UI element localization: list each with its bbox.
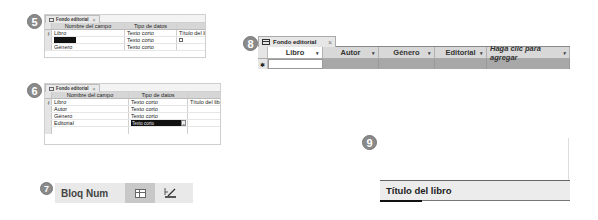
sort-filter-arrow-icon[interactable]: ▾ — [480, 50, 483, 56]
field-row-empty[interactable] — [45, 127, 220, 134]
field-row[interactable]: Editorial Texto corto ⌄ — [45, 120, 220, 127]
field-row[interactable]: ⚷ Libro Texto corto Título del libro — [45, 30, 205, 37]
chevron-down-icon[interactable]: ⌄ — [181, 120, 186, 126]
data-type-cell[interactable]: Texto corto — [125, 30, 177, 36]
data-type-cell[interactable]: Texto corto — [129, 106, 188, 112]
header-data-type: Tipo de datos — [129, 92, 188, 98]
field-row[interactable]: Género Texto corto — [45, 44, 205, 51]
data-type-cell[interactable]: Texto corto — [125, 44, 177, 50]
field-name-cell[interactable]: Libro — [52, 99, 129, 105]
data-type-cell[interactable]: Texto corto — [129, 99, 188, 105]
design-view-icon — [164, 187, 177, 199]
column-headers: Libro ▾ Autor ▾ Género ▾ Editorial ▾ Hag… — [258, 47, 570, 59]
table-design-icon — [49, 18, 54, 22]
row-selector[interactable] — [45, 106, 52, 112]
field-name-cell-selected[interactable]: Autor — [52, 37, 125, 43]
tab-label: Fondo editorial — [56, 86, 89, 91]
tab-fondo-editorial[interactable]: Fondo editorial × — [45, 15, 100, 23]
description-cell[interactable] — [188, 127, 220, 134]
datasheet-view: Fondo editorial × Libro ▾ Autor ▾ Género… — [258, 36, 570, 70]
new-record-icon: ✱ — [258, 59, 268, 69]
step-6-badge: 6 — [27, 83, 42, 98]
data-type-dropdown[interactable]: Texto corto ⌄ — [129, 120, 188, 126]
add-column-header[interactable]: Haga clic para agregar ▾ — [487, 47, 570, 58]
tab-fondo-editorial[interactable]: Fondo editorial × — [258, 36, 336, 47]
table-icon — [262, 39, 270, 45]
data-type-cell[interactable] — [129, 127, 188, 134]
cell-genero[interactable] — [379, 59, 435, 69]
datasheet-view-button[interactable] — [125, 183, 155, 203]
field-row[interactable]: Autor Texto corto — [45, 37, 205, 44]
column-label: Libro — [286, 48, 305, 57]
design-view-table-1: Fondo editorial × Nombre del campo Tipo … — [44, 14, 206, 58]
row-selector[interactable] — [45, 113, 52, 119]
selected-text: Autor — [54, 37, 76, 43]
select-all-corner[interactable] — [258, 47, 268, 58]
grid-header: Nombre del campo Tipo de datos — [45, 92, 220, 99]
field-name-cell[interactable]: Género — [52, 44, 125, 50]
field-row[interactable]: Autor Texto corto — [45, 106, 220, 113]
field-name-cell[interactable]: Libro — [52, 30, 125, 36]
description-cell[interactable] — [177, 37, 205, 43]
field-name-cell[interactable]: Género — [52, 113, 129, 119]
data-type-cell[interactable]: Texto corto — [125, 37, 177, 43]
header-description — [177, 23, 205, 29]
header-field-name: Nombre del campo — [52, 23, 125, 29]
description-cell[interactable]: Título del libro — [188, 99, 220, 105]
primary-key-icon: ⚷ — [45, 99, 52, 105]
row-selector-header — [45, 23, 52, 29]
column-label: Autor — [341, 48, 361, 57]
field-name-cell[interactable]: Editorial — [52, 120, 129, 126]
column-header-autor[interactable]: Autor ▾ — [323, 47, 379, 58]
column-header-genero[interactable]: Género ▾ — [379, 47, 435, 58]
tab-label: Fondo editorial — [56, 17, 89, 22]
row-selector[interactable] — [45, 37, 52, 43]
smart-tag-icon[interactable] — [179, 38, 183, 42]
description-cell[interactable] — [188, 106, 220, 112]
document-tab-bar: Fondo editorial × — [45, 84, 220, 92]
caption-text: Título del libro — [386, 185, 451, 196]
sort-filter-arrow-icon[interactable]: ▾ — [372, 50, 375, 56]
cell-autor[interactable] — [323, 59, 379, 69]
tab-fondo-editorial[interactable]: Fondo editorial × — [45, 84, 100, 92]
document-tab-bar: Fondo editorial × — [45, 15, 205, 23]
description-cell[interactable] — [188, 113, 220, 119]
grid-header: Nombre del campo Tipo de datos — [45, 23, 205, 30]
num-lock-indicator: Bloq Num — [55, 188, 125, 199]
design-view-table-2: Fondo editorial × Nombre del campo Tipo … — [44, 83, 221, 145]
cell-editorial[interactable] — [435, 59, 487, 69]
field-caption-label: Título del libro — [380, 180, 570, 201]
field-row[interactable]: Género Texto corto — [45, 113, 220, 120]
sort-filter-arrow-icon[interactable]: ▾ — [563, 50, 566, 56]
header-field-name: Nombre del campo — [52, 92, 129, 98]
step-5-badge: 5 — [27, 14, 42, 29]
row-selector[interactable] — [45, 44, 52, 50]
column-header-libro[interactable]: Libro ▾ — [268, 47, 323, 58]
data-type-selected-value[interactable]: Texto corto — [131, 120, 181, 126]
field-name-cell[interactable]: Autor — [52, 106, 129, 112]
close-tab-icon[interactable]: × — [93, 17, 96, 23]
sort-filter-arrow-icon[interactable]: ▾ — [428, 50, 431, 56]
description-cell[interactable] — [188, 120, 220, 126]
column-label: Editorial — [445, 48, 475, 57]
header-description — [188, 92, 220, 98]
field-name-cell[interactable] — [52, 127, 129, 134]
close-tab-icon[interactable]: × — [328, 39, 332, 46]
row-selector-header — [45, 92, 52, 98]
description-cell[interactable] — [177, 44, 205, 50]
step-9-badge: 9 — [362, 135, 377, 150]
field-row[interactable]: ⚷ Libro Texto corto Título del libro — [45, 99, 220, 106]
field-grid: Nombre del campo Tipo de datos ⚷ Libro T… — [45, 23, 205, 51]
column-header-editorial[interactable]: Editorial ▾ — [435, 47, 487, 58]
tab-label: Fondo editorial — [273, 39, 316, 45]
design-view-button[interactable] — [155, 183, 185, 203]
close-tab-icon[interactable]: × — [93, 86, 96, 92]
row-selector[interactable] — [45, 127, 52, 134]
cell-libro[interactable] — [268, 59, 323, 69]
primary-key-icon: ⚷ — [45, 30, 52, 36]
datasheet-view-icon — [135, 189, 146, 198]
data-type-cell[interactable]: Texto corto — [129, 113, 188, 119]
sort-filter-arrow-icon[interactable]: ▾ — [316, 50, 319, 56]
row-selector[interactable] — [45, 120, 52, 126]
description-cell[interactable]: Título del libro — [177, 30, 205, 36]
